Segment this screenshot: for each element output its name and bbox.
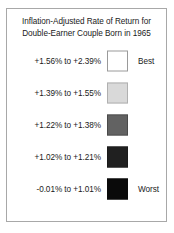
legend-title-line-2: Double-Earner Couple Born in 1965 — [13, 28, 160, 40]
legend-entry-list: +1.56% to +2.39% Best +1.39% to +1.55% +… — [7, 45, 166, 205]
legend-title-line-1: Inflation-Adjusted Rate of Return for — [13, 16, 160, 28]
legend-range-label: +1.39% to +1.55% — [15, 89, 101, 98]
legend-entry: +1.39% to +1.55% — [7, 77, 166, 109]
legend-color-swatch — [107, 83, 128, 104]
legend-color-swatch — [107, 115, 128, 136]
legend-qualifier-label: Best — [138, 57, 154, 66]
legend-entry: +1.56% to +2.39% Best — [7, 45, 166, 77]
legend-frame: Inflation-Adjusted Rate of Return for Do… — [6, 8, 167, 222]
legend-qualifier-label: Worst — [138, 185, 159, 194]
legend-color-swatch — [107, 147, 128, 168]
legend-color-swatch — [107, 179, 128, 200]
legend-range-label: +1.22% to +1.38% — [15, 121, 101, 130]
legend-title: Inflation-Adjusted Rate of Return for Do… — [7, 9, 166, 39]
legend-range-label: +1.56% to +2.39% — [15, 57, 101, 66]
legend-color-swatch — [107, 51, 128, 72]
legend-entry: +1.02% to +1.21% — [7, 141, 166, 173]
legend-entry: +1.22% to +1.38% — [7, 109, 166, 141]
legend-entry: -0.01% to +1.01% Worst — [7, 173, 166, 205]
legend-range-label: -0.01% to +1.01% — [15, 185, 101, 194]
legend-range-label: +1.02% to +1.21% — [15, 153, 101, 162]
